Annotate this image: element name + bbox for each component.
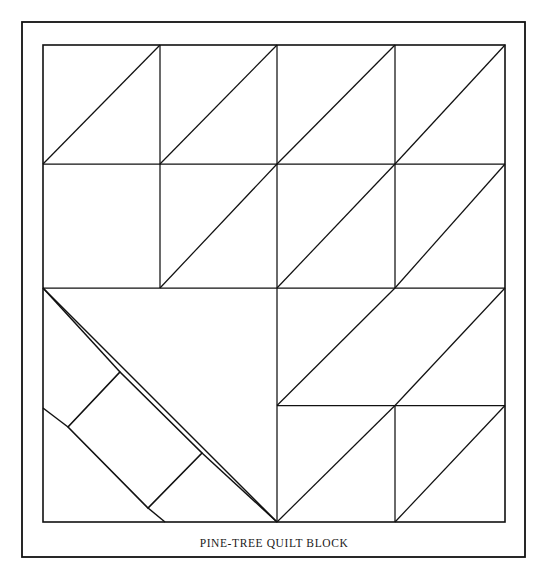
figure-background	[0, 0, 547, 581]
figure-root: PINE-TREE QUILT BLOCK	[0, 0, 547, 581]
pine-tree-quilt-block-figure: PINE-TREE QUILT BLOCK	[0, 0, 547, 581]
caption-text: PINE-TREE QUILT BLOCK	[200, 537, 349, 549]
